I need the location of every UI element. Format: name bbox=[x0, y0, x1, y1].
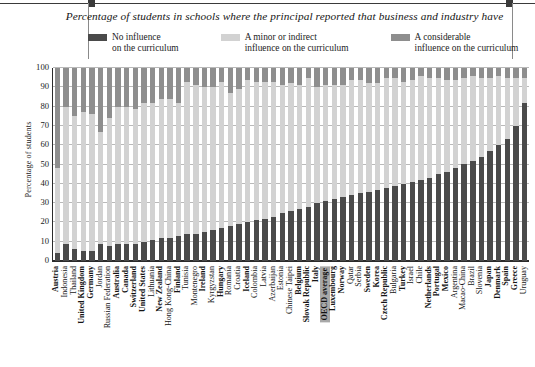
bar-column bbox=[174, 68, 183, 261]
bar-column bbox=[373, 68, 382, 261]
stacked-bar bbox=[340, 68, 345, 261]
stacked-bar bbox=[496, 68, 501, 261]
bar-segment-considerable bbox=[63, 68, 68, 107]
bar-segment-no_influence bbox=[176, 236, 181, 261]
bar-segment-minor bbox=[254, 82, 259, 221]
bar-column bbox=[53, 68, 62, 261]
y-tick-label-90: 90 bbox=[40, 82, 49, 90]
bar-segment-no_influence bbox=[63, 244, 68, 261]
bar-segment-minor bbox=[444, 80, 449, 173]
x-axis-tick-label: Mexico bbox=[442, 266, 450, 291]
bar-segment-no_influence bbox=[228, 226, 233, 261]
stacked-bar bbox=[55, 68, 60, 261]
bar-segment-no_influence bbox=[444, 172, 449, 261]
bar-column bbox=[131, 68, 140, 261]
bar-segment-considerable bbox=[55, 68, 60, 168]
legend-label-line1: A considerable bbox=[415, 32, 471, 42]
bar-column bbox=[460, 68, 469, 261]
y-tick-label-0: 0 bbox=[45, 256, 49, 264]
legend-item-minor: A minor or indirect influence on the cur… bbox=[221, 32, 349, 54]
x-axis-tick-label: Hong Kong-China bbox=[165, 266, 173, 326]
bar-segment-considerable bbox=[427, 68, 432, 78]
bar-segment-minor bbox=[288, 83, 293, 210]
stacked-bar bbox=[141, 68, 146, 261]
bar-column bbox=[122, 68, 131, 261]
stacked-bar bbox=[375, 68, 380, 261]
stacked-bar bbox=[254, 68, 259, 261]
bar-segment-considerable bbox=[410, 68, 415, 80]
bar-segment-considerable bbox=[159, 68, 164, 99]
stacked-bar bbox=[236, 68, 241, 261]
bar-segment-considerable bbox=[513, 68, 518, 78]
bar-segment-minor bbox=[375, 83, 380, 189]
bar-column bbox=[313, 68, 322, 261]
bar-segment-considerable bbox=[306, 68, 311, 78]
bar-segment-considerable bbox=[98, 68, 103, 132]
bar-segment-considerable bbox=[496, 68, 501, 76]
stacked-bar bbox=[366, 68, 371, 261]
bar-column bbox=[399, 68, 408, 261]
bar-column bbox=[269, 68, 278, 261]
bar-column bbox=[79, 68, 88, 261]
legend-label-line2: influence on the curriculum bbox=[415, 43, 519, 53]
stacked-bar bbox=[332, 68, 337, 261]
bar-column bbox=[166, 68, 175, 261]
plot-area: 0102030405060708090100 bbox=[52, 68, 529, 262]
bar-segment-considerable bbox=[271, 68, 276, 82]
bar-segment-minor bbox=[141, 103, 146, 242]
stacked-bar bbox=[81, 68, 86, 261]
bar-column bbox=[451, 68, 460, 261]
bar-segment-minor bbox=[202, 87, 207, 232]
x-axis-tick-label: Tunisia bbox=[182, 266, 190, 290]
bar-column bbox=[417, 68, 426, 261]
bar-column bbox=[261, 68, 270, 261]
bar-segment-minor bbox=[332, 85, 337, 199]
bar-series-container bbox=[53, 68, 529, 261]
bar-segment-no_influence bbox=[297, 209, 302, 261]
bar-segment-minor bbox=[392, 78, 397, 186]
x-label-cell: Uruguay bbox=[519, 263, 528, 367]
bar-segment-no_influence bbox=[167, 238, 172, 261]
bar-segment-considerable bbox=[418, 68, 423, 76]
bar-segment-no_influence bbox=[107, 246, 112, 261]
bar-column bbox=[304, 68, 313, 261]
bar-segment-minor bbox=[505, 78, 510, 140]
bar-column bbox=[347, 68, 356, 261]
bar-segment-considerable bbox=[245, 68, 250, 80]
x-axis-tick-label: Macao-China bbox=[459, 266, 467, 310]
bar-segment-minor bbox=[314, 87, 319, 203]
bar-segment-considerable bbox=[436, 68, 441, 78]
bar-column bbox=[243, 68, 252, 261]
bar-segment-considerable bbox=[332, 68, 337, 85]
x-axis-tick-label: Norway bbox=[338, 266, 346, 293]
legend-label-line2: on the curriculum bbox=[112, 43, 179, 53]
bar-segment-no_influence bbox=[184, 234, 189, 261]
bar-segment-no_influence bbox=[219, 228, 224, 261]
bar-segment-no_influence bbox=[280, 213, 285, 261]
bar-segment-minor bbox=[479, 78, 484, 157]
stacked-bar bbox=[401, 68, 406, 261]
bar-segment-considerable bbox=[150, 68, 155, 103]
bar-segment-no_influence bbox=[141, 242, 146, 261]
stacked-bar bbox=[176, 68, 181, 261]
stacked-bar bbox=[513, 68, 518, 261]
bar-segment-minor bbox=[340, 85, 345, 197]
bar-segment-no_influence bbox=[487, 151, 492, 261]
x-label-cell: Germany bbox=[87, 263, 96, 367]
x-axis-tick-label: Portugal bbox=[433, 266, 441, 296]
x-label-cell: Chile bbox=[416, 263, 425, 367]
bar-segment-minor bbox=[245, 80, 250, 223]
x-axis-tick-label: Croatia bbox=[234, 266, 242, 290]
bar-column bbox=[365, 68, 374, 261]
bar-segment-minor bbox=[436, 78, 441, 175]
bar-segment-considerable bbox=[366, 68, 371, 83]
stacked-bar bbox=[410, 68, 415, 261]
x-axis-tick-label: Bulgaria bbox=[390, 266, 398, 294]
bar-column bbox=[287, 68, 296, 261]
stacked-bar bbox=[72, 68, 77, 261]
bar-segment-considerable bbox=[349, 68, 354, 80]
bar-segment-no_influence bbox=[436, 174, 441, 261]
bar-segment-minor bbox=[184, 82, 189, 234]
bar-column bbox=[192, 68, 201, 261]
bar-segment-minor bbox=[167, 99, 172, 238]
